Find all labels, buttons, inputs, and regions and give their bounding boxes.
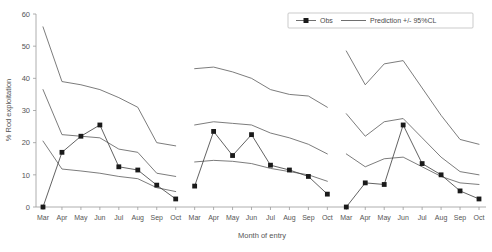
obs-data-point: [420, 161, 425, 166]
obs-data-point: [135, 168, 140, 173]
y-tick-label: 40: [22, 74, 30, 83]
y-tick-group: 0102030405060: [22, 10, 36, 212]
y-axis-group: 0102030405060: [22, 10, 36, 212]
legend-obs-label: Obs: [320, 17, 333, 24]
x-tick-label: Aug: [435, 214, 448, 222]
series-line-upper-95-cl: [195, 67, 328, 107]
obs-data-point: [192, 184, 197, 189]
x-tick-label: Oct: [322, 214, 333, 221]
series-line-upper-95-cl: [346, 51, 479, 144]
series-line-obs: [43, 125, 176, 207]
x-tick-label: May: [226, 214, 240, 222]
x-tick-label: Mar: [340, 214, 353, 221]
y-tick-label: 30: [22, 106, 30, 115]
x-tick-label: Jun: [398, 214, 409, 221]
x-tick-label: Apr: [360, 214, 372, 222]
obs-data-point: [439, 172, 444, 177]
series-line-obs: [195, 131, 328, 194]
series-group: [41, 27, 482, 210]
x-tick-label: Apr: [57, 214, 69, 222]
obs-data-point: [382, 182, 387, 187]
obs-data-point: [458, 189, 463, 194]
x-tick-label: Aug: [283, 214, 296, 222]
y-tick-label: 50: [22, 42, 30, 51]
y-tick-label: 0: [26, 203, 30, 212]
legend-prediction-label: Prediction +/- 95%CL: [370, 17, 436, 24]
x-tick-label: Jul: [418, 214, 427, 221]
y-axis-title: % Rod exploitation: [4, 79, 13, 142]
obs-data-point: [211, 129, 216, 134]
series-line-prediction: [195, 122, 328, 154]
obs-data-point: [97, 123, 102, 128]
y-tick-label: 20: [22, 138, 30, 147]
y-tick-label: 60: [22, 10, 30, 19]
x-tick-label: Jul: [114, 214, 123, 221]
chart-container: 0102030405060 MarAprMayJunJulAugSepOctMa…: [0, 0, 492, 252]
x-axis-title: Month of entry: [238, 231, 286, 240]
obs-data-point: [477, 197, 482, 202]
x-tick-label: Sep: [302, 214, 315, 222]
obs-data-point: [363, 180, 368, 185]
x-tick-label: May: [378, 214, 392, 222]
x-tick-label: Mar: [37, 214, 50, 221]
series-line-prediction: [43, 90, 176, 177]
obs-data-point: [41, 205, 46, 210]
obs-data-point: [325, 192, 330, 197]
x-tick-label: Mar: [189, 214, 202, 221]
y-tick-label: 10: [22, 171, 30, 180]
obs-data-point: [306, 174, 311, 179]
obs-data-point: [173, 197, 178, 202]
obs-data-point: [154, 183, 159, 188]
obs-data-point: [60, 150, 65, 155]
x-tick-label: Aug: [132, 214, 145, 222]
x-tick-label: May: [74, 214, 88, 222]
x-tick-label: Jun: [94, 214, 105, 221]
x-tick-label: Jun: [246, 214, 257, 221]
x-tick-label: Sep: [151, 214, 164, 222]
chart-svg: 0102030405060 MarAprMayJunJulAugSepOctMa…: [0, 0, 492, 252]
x-tick-label: Jul: [266, 214, 275, 221]
obs-data-point: [287, 168, 292, 173]
obs-data-point: [344, 205, 349, 210]
series-line-upper-95-cl: [43, 27, 176, 146]
obs-data-point: [401, 123, 406, 128]
obs-data-point: [249, 132, 254, 137]
x-tick-label: Oct: [170, 214, 181, 221]
x-tick-label: Apr: [208, 214, 220, 222]
x-tick-group: MarAprMayJunJulAugSepOctMarAprMayJunJulA…: [37, 207, 485, 222]
x-tick-label: Oct: [474, 214, 485, 221]
obs-data-point: [230, 153, 235, 158]
x-tick-label: Sep: [454, 214, 467, 222]
legend-obs-marker-icon: [304, 18, 309, 23]
legend: Obs Prediction +/- 95%CL: [288, 13, 473, 28]
series-line-lower-95-cl: [346, 154, 479, 185]
x-axis-group: MarAprMayJunJulAugSepOctMarAprMayJunJulA…: [36, 207, 486, 222]
obs-data-point: [268, 163, 273, 168]
obs-data-point: [116, 164, 121, 169]
obs-data-point: [79, 134, 84, 139]
